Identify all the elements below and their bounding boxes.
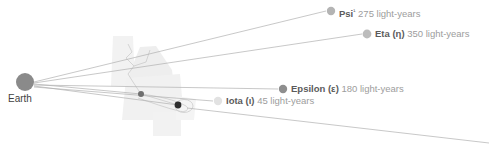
star-dot-epsilon [279,85,287,93]
star-distance-diagram: Psi¹ 275 light-years Eta (η) 350 light-y… [0,0,491,152]
sight-line-earth-to-psi [34,11,326,82]
sight-line-earth-to-eta [34,34,362,83]
sight-line-node-to-lower-right [187,108,489,143]
star-dot-iota [214,97,222,105]
star-dot-eta [363,30,372,39]
constellation-node-a [138,91,144,97]
constellation-silhouette [111,36,196,136]
diagram-canvas [0,0,491,152]
star-dot-psi [327,7,335,15]
constellation-node-b [175,102,182,109]
sight-lines [34,11,489,143]
earth-dot [16,73,34,91]
sight-line-earth-to-iota [34,87,213,101]
